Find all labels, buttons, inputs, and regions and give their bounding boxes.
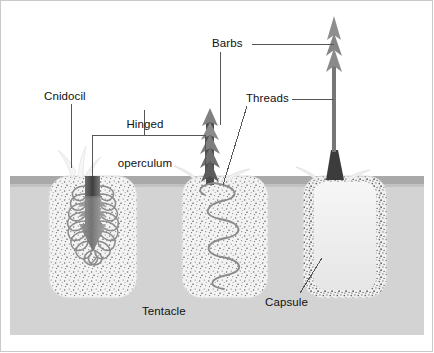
figure-canvas: Cnidocil Hinged operculum Barbs Threads … <box>0 0 434 353</box>
figure-border <box>0 0 433 352</box>
